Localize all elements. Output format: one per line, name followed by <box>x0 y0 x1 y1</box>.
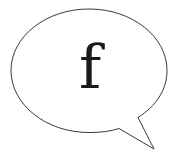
speech-bubble-icon: f <box>0 0 178 161</box>
bubble-letter: f <box>79 32 105 102</box>
